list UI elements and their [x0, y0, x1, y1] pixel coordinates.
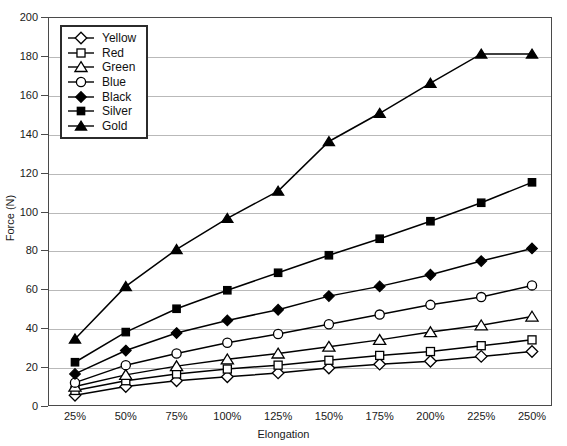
data-point-marker [426, 348, 434, 356]
data-point-marker [526, 346, 538, 358]
x-tick-label: 175% [366, 410, 394, 422]
data-point-marker [77, 49, 85, 57]
legend: YellowRedGreenBlueBlackSilverGold [60, 25, 148, 139]
data-point-marker [374, 281, 385, 292]
data-point-marker [325, 252, 332, 259]
legend-label: Black [102, 90, 131, 104]
x-tick-label: 100% [213, 410, 241, 422]
data-point-marker [122, 328, 129, 335]
data-point-marker [376, 351, 384, 359]
data-point-marker [274, 269, 281, 276]
legend-item-black[interactable]: Black [66, 89, 136, 104]
data-point-marker [528, 336, 536, 344]
data-point-marker [324, 320, 333, 329]
data-point-marker [527, 243, 538, 254]
data-point-marker [374, 108, 385, 117]
data-point-marker [476, 256, 487, 267]
data-point-marker [477, 342, 485, 350]
series-line [75, 285, 532, 382]
data-point-marker [76, 91, 87, 102]
data-point-marker [222, 213, 233, 222]
legend-label: Yellow [102, 31, 136, 45]
series-line [75, 248, 532, 373]
data-point-marker [526, 311, 538, 321]
data-point-marker [77, 108, 84, 115]
x-tick-label: 200% [416, 410, 444, 422]
legend-item-blue[interactable]: Blue [66, 75, 136, 90]
x-tick-label: 50% [115, 410, 137, 422]
legend-label: Red [102, 46, 124, 60]
series-silver [71, 179, 535, 366]
data-point-marker [427, 218, 434, 225]
data-point-marker [325, 356, 333, 364]
x-tick-label: 250% [518, 410, 546, 422]
data-point-marker [376, 235, 383, 242]
data-point-marker [171, 245, 182, 254]
data-point-marker [425, 269, 436, 280]
series-line [75, 182, 532, 362]
data-point-marker [425, 356, 437, 368]
x-tick-label: 150% [315, 410, 343, 422]
legend-marker-open-circle-icon [66, 75, 96, 89]
legend-label: Silver [102, 104, 132, 118]
x-tick-label: 75% [166, 410, 188, 422]
data-point-marker [172, 349, 181, 358]
legend-item-gold[interactable]: Gold [66, 119, 136, 134]
legend-marker-filled-triangle-icon [66, 119, 96, 133]
data-point-marker [75, 33, 87, 45]
data-point-marker [70, 369, 81, 380]
data-point-marker [375, 310, 384, 319]
legend-item-silver[interactable]: Silver [66, 104, 136, 119]
data-point-marker [274, 329, 283, 338]
x-tick-label: 125% [264, 410, 292, 422]
data-point-marker [121, 345, 131, 356]
legend-label: Blue [102, 75, 126, 89]
data-point-marker [528, 179, 535, 186]
data-point-marker [274, 361, 282, 369]
data-point-marker [76, 77, 85, 86]
legend-label: Green [102, 60, 135, 74]
legend-marker-open-triangle-icon [66, 60, 96, 74]
data-point-marker [223, 365, 231, 373]
series-line [75, 340, 532, 391]
data-point-marker [425, 78, 436, 87]
data-point-marker [475, 351, 487, 363]
x-tick-label: 225% [467, 410, 495, 422]
data-point-marker [324, 291, 335, 302]
data-point-marker [71, 359, 78, 366]
x-axis-title: Elongation [0, 428, 567, 440]
legend-item-green[interactable]: Green [66, 60, 136, 75]
series-line [75, 352, 532, 396]
data-point-marker [121, 361, 130, 370]
data-point-marker [374, 358, 386, 370]
legend-marker-open-square-icon [66, 46, 96, 60]
data-point-marker [273, 304, 284, 315]
x-tick-label: 25% [64, 410, 86, 422]
legend-item-red[interactable]: Red [66, 46, 136, 61]
data-point-marker [477, 292, 486, 301]
legend-marker-filled-diamond-icon [66, 90, 96, 104]
chart-container: Force (N) 020406080100120140160180200 25… [0, 0, 567, 446]
series-yellow [69, 346, 538, 401]
series-blue [70, 281, 536, 387]
data-point-marker [173, 305, 180, 312]
data-point-marker [224, 287, 231, 294]
data-point-marker [171, 328, 182, 339]
data-point-marker [222, 315, 233, 326]
data-point-marker [223, 338, 232, 347]
data-point-marker [323, 137, 334, 146]
data-point-marker [527, 281, 536, 290]
legend-marker-filled-square-icon [66, 104, 96, 118]
legend-item-yellow[interactable]: Yellow [66, 31, 136, 46]
series-line [75, 317, 532, 387]
legend-label: Gold [102, 119, 127, 133]
data-point-marker [478, 199, 485, 206]
data-point-marker [426, 300, 435, 309]
legend-marker-open-diamond-icon [66, 31, 96, 45]
